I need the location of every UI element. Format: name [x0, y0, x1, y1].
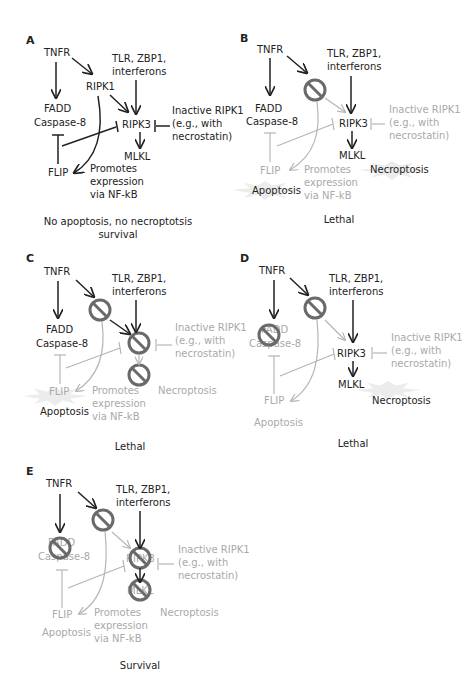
panel-e: E TNFR TLR, ZBP1, interferons FADD Caspa…	[26, 465, 250, 671]
label-nfkb: via NF-kB	[304, 190, 352, 201]
node-ripk3: RIPK3	[337, 348, 366, 359]
panel-caption: Survival	[120, 660, 160, 671]
node-ripk3: RIPK3	[339, 118, 368, 129]
label-promotes: Promotes	[90, 163, 137, 174]
label-promotes: Promotes	[304, 164, 351, 175]
panel-label: B	[240, 32, 248, 45]
node-interferons: interferons	[116, 497, 171, 508]
node-inactive-eg: (e.g., with	[391, 345, 441, 356]
node-inactive-eg: (e.g., with	[178, 557, 228, 568]
node-inactive-eg: (e.g., with	[175, 335, 225, 346]
panel-caption: Lethal	[115, 441, 146, 452]
node-tlr: TLR, ZBP1,	[111, 273, 166, 284]
label-promotes: Promotes	[94, 607, 141, 618]
ban-icon-ripk1	[305, 80, 325, 100]
panel-b: B TNFR TLR, ZBP1, interferons FADD Caspa…	[232, 32, 461, 225]
node-caspase8: Caspase-8	[246, 116, 298, 127]
label-nfkb: via NF-kB	[92, 411, 140, 422]
node-ripk1: RIPK1	[86, 81, 115, 92]
node-inactive-ripk1: Inactive RIPK1	[172, 105, 244, 116]
ban-icon-ripk1	[90, 300, 110, 320]
node-fadd: FADD	[255, 103, 282, 114]
outcome-necroptosis: Necroptosis	[160, 607, 219, 618]
node-fadd: FADD	[44, 103, 71, 114]
node-interferons: interferons	[112, 286, 167, 297]
panel-caption: Lethal	[324, 214, 355, 225]
node-tnfr: TNFR	[43, 47, 70, 58]
node-mlkl: MLKL	[338, 379, 365, 390]
node-inactive-necrostatin: necrostatin)	[175, 348, 235, 359]
label-expression: expression	[92, 398, 146, 409]
node-caspase8: Caspase-8	[36, 338, 88, 349]
label-nfkb: via NF-kB	[94, 633, 142, 644]
node-inactive-necrostatin: necrostatin)	[389, 130, 449, 141]
node-mlkl: MLKL	[124, 151, 151, 162]
node-tlr: TLR, ZBP1,	[111, 53, 166, 64]
node-inactive-eg: (e.g., with	[172, 118, 222, 129]
node-flip: FLIP	[260, 165, 280, 176]
node-tnfr: TNFR	[45, 478, 72, 489]
outcome-apoptosis: Apoptosis	[252, 185, 301, 196]
outcome-apoptosis: Apoptosis	[42, 627, 91, 638]
node-interferons: interferons	[327, 61, 382, 72]
panel-c: C TNFR TLR, ZBP1, interferons FADD Caspa…	[22, 252, 247, 452]
node-fadd: FADD	[46, 324, 73, 335]
outcome-apoptosis: Apoptosis	[254, 417, 303, 428]
node-interferons: interferons	[112, 66, 167, 77]
panel-label: C	[26, 252, 34, 265]
ban-icon-ripk3	[129, 333, 149, 353]
ban-icon-ripk1	[93, 510, 113, 530]
node-flip: FLIP	[48, 167, 68, 178]
node-flip: FLIP	[49, 386, 69, 397]
node-tnfr: TNFR	[256, 44, 283, 55]
panel-label: E	[26, 465, 34, 478]
panel-caption: Lethal	[338, 438, 369, 449]
panel-caption: No apoptosis, no necroptotsis	[44, 216, 192, 227]
node-flip: FLIP	[52, 609, 72, 620]
label-expression: expression	[90, 176, 144, 187]
node-ripk3: RIPK3	[122, 119, 151, 130]
node-inactive-eg: (e.g., with	[389, 117, 439, 128]
node-mlkl: MLKL	[339, 150, 366, 161]
node-inactive-necrostatin: necrostatin)	[172, 131, 232, 142]
ban-icon-ripk1	[305, 298, 325, 318]
ban-icon-mlkl	[129, 365, 149, 385]
node-tlr: TLR, ZBP1,	[326, 48, 381, 59]
panel-caption-2: survival	[98, 229, 137, 240]
node-tlr: TLR, ZBP1,	[115, 484, 170, 495]
node-inactive-necrostatin: necrostatin)	[391, 358, 451, 369]
node-inactive-ripk1: Inactive RIPK1	[391, 332, 463, 343]
node-inactive-ripk1: Inactive RIPK1	[389, 104, 461, 115]
node-inactive-ripk1: Inactive RIPK1	[178, 544, 250, 555]
label-nfkb: via NF-kB	[90, 189, 138, 200]
node-caspase8: Caspase-8	[34, 117, 86, 128]
outcome-apoptosis: Apoptosis	[40, 406, 89, 417]
node-tnfr: TNFR	[43, 266, 70, 277]
panel-d: D TNFR TLR, ZBP1, interferons FADD Caspa…	[240, 252, 463, 449]
panel-a: A TNFR TLR, ZBP1, interferons RIPK1 FADD…	[26, 34, 244, 240]
outcome-necroptosis: Necroptosis	[158, 385, 217, 396]
panel-label: D	[240, 252, 249, 265]
node-inactive-ripk1: Inactive RIPK1	[175, 322, 247, 333]
node-interferons: interferons	[329, 286, 384, 297]
node-tlr: TLR, ZBP1,	[328, 273, 383, 284]
node-tnfr: TNFR	[258, 265, 285, 276]
panel-label: A	[26, 34, 35, 47]
label-promotes: Promotes	[92, 385, 139, 396]
outcome-necroptosis: Necroptosis	[372, 395, 431, 406]
label-expression: expression	[304, 177, 358, 188]
pathway-figure: A TNFR TLR, ZBP1, interferons RIPK1 FADD…	[0, 0, 470, 673]
label-expression: expression	[94, 620, 148, 631]
outcome-necroptosis: Necroptosis	[370, 164, 429, 175]
node-flip: FLIP	[264, 395, 284, 406]
node-inactive-necrostatin: necrostatin)	[178, 570, 238, 581]
